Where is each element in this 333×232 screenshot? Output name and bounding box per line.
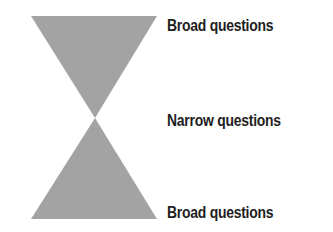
top-triangle xyxy=(31,16,157,118)
label-middle-narrow-questions: Narrow questions xyxy=(167,112,281,129)
label-top-broad-questions: Broad questions xyxy=(167,17,273,34)
bottom-triangle xyxy=(31,118,157,219)
label-bottom-broad-questions: Broad questions xyxy=(167,204,273,221)
